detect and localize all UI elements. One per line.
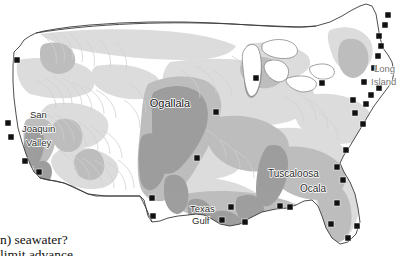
site-marker-m-ma-coast: [378, 43, 384, 49]
map-label-gulf: Gulf: [192, 215, 210, 226]
site-marker-m-tx-west: [149, 195, 155, 201]
site-marker-m-ny-li: [361, 79, 367, 85]
aquifer-map-figure: OgallalaSanJoaquinValleyTuscaloosaOcalaT…: [0, 0, 402, 265]
map-label-ocala: Ocala: [300, 183, 327, 194]
map-label-san: San: [30, 109, 47, 120]
site-marker-m-tx-gulf: [228, 204, 234, 210]
site-marker-m-va-coast: [352, 110, 358, 116]
site-marker-m-oh: [319, 80, 325, 86]
site-marker-m-ca-bay: [8, 134, 14, 140]
caption-line-1: n) seawater?: [0, 232, 150, 247]
site-marker-m-nh-coast: [376, 33, 382, 39]
map-label-joaquin: Joaquin: [22, 123, 55, 134]
caption-line-2: limit advance: [0, 247, 150, 256]
site-marker-m-la-gulf: [219, 217, 225, 223]
site-marker-m-fl-south: [345, 235, 351, 241]
site-marker-m-me-coast: [382, 22, 388, 28]
site-marker-m-me-north: [385, 12, 391, 18]
map-label-island: Island: [371, 76, 396, 87]
site-marker-m-ca-north: [5, 120, 11, 126]
site-marker-m-ga-coast: [334, 164, 340, 170]
page-caption: n) seawater? limit advance: [0, 232, 150, 256]
site-marker-m-tx-southwest: [150, 213, 156, 219]
map-body: OgallalaSanJoaquinValleyTuscaloosaOcalaT…: [0, 0, 402, 265]
site-marker-m-nc-coast: [360, 121, 366, 127]
site-marker-m-ri-coast: [375, 53, 381, 59]
site-marker-m-ne: [213, 109, 219, 115]
site-marker-m-de-coast: [350, 97, 356, 103]
map-label-tuscaloosa: Tuscaloosa: [268, 168, 319, 179]
site-marker-m-fl-ne: [340, 177, 346, 183]
site-marker-m-sc-coast: [343, 147, 349, 153]
site-marker-m-md-coast: [363, 101, 369, 107]
site-marker-m-fl-se: [354, 223, 360, 229]
site-marker-m-nj-coast: [368, 92, 374, 98]
map-label-ogallala: Ogallala: [150, 97, 191, 109]
site-marker-m-ca-south: [36, 169, 42, 175]
site-marker-m-al-gulf: [277, 203, 283, 209]
site-marker-m-wa-coast: [14, 57, 20, 63]
site-marker-m-il: [253, 75, 259, 81]
us-aquifer-map: OgallalaSanJoaquinValleyTuscaloosaOcalaT…: [0, 0, 402, 265]
map-label-long: Long: [374, 63, 395, 74]
site-marker-m-ms-gulf: [242, 219, 248, 225]
site-marker-m-ks: [194, 155, 200, 161]
site-marker-m-fl-panhandle: [287, 204, 293, 210]
site-marker-m-fl-swcoast: [328, 221, 334, 227]
map-label-valley: Valley: [26, 137, 51, 148]
site-marker-m-fl-central: [334, 200, 340, 206]
site-marker-m-ca-central: [22, 158, 28, 164]
map-label-texas: Texas: [190, 203, 215, 214]
